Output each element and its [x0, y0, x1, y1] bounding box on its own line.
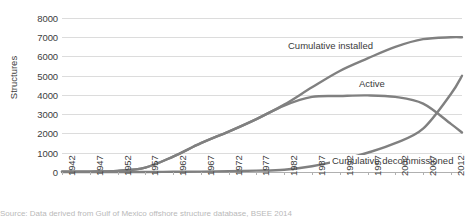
x-tick-label-1982: 1982 [288, 155, 299, 176]
x-tick-label-1942: 1942 [66, 155, 77, 176]
x-tick-label-1972: 1972 [233, 155, 244, 176]
x-tick-label-1967: 1967 [205, 155, 216, 176]
x-tick-mark-2012 [451, 172, 452, 175]
series-line-cumulative-installed [62, 37, 462, 172]
x-tick-mark-2007 [423, 172, 424, 175]
x-tick-mark-1972 [229, 172, 230, 175]
x-tick-label-1977: 1977 [260, 155, 271, 176]
x-tick-mark-1957 [145, 172, 146, 175]
x-tick-mark-1977 [256, 172, 257, 175]
x-tick-label-2007: 2007 [427, 155, 438, 176]
x-tick-mark-1967 [201, 172, 202, 175]
x-tick-mark-1982 [284, 172, 285, 175]
x-tick-label-1987: 1987 [316, 155, 327, 176]
x-tick-mark-1947 [90, 172, 91, 175]
x-tick-label-1997: 1997 [372, 155, 383, 176]
x-tick-label-1947: 1947 [94, 155, 105, 176]
x-tick-label-2012: 2012 [455, 155, 466, 176]
x-tick-mark-1962 [173, 172, 174, 175]
x-tick-label-1962: 1962 [177, 155, 188, 176]
x-tick-mark-1942 [62, 172, 63, 175]
x-tick-mark-2002 [395, 172, 396, 175]
series-label-cumulative-installed: Cumulative installed [286, 40, 375, 51]
x-tick-mark-1992 [340, 172, 341, 175]
x-tick-mark-1987 [312, 172, 313, 175]
x-tick-label-1957: 1957 [149, 155, 160, 176]
x-tick-label-1992: 1992 [344, 155, 355, 176]
series-layer [0, 0, 471, 218]
x-tick-label-1952: 1952 [122, 155, 133, 176]
series-label-active: Active [357, 78, 387, 89]
chart-figure: Structures 8000 7000 6000 5000 4000 3000… [0, 0, 471, 218]
figure-caption: Source: Data derived from Gulf of Mexico… [0, 209, 471, 218]
x-tick-mark-1997 [368, 172, 369, 175]
x-tick-label-2002: 2002 [399, 155, 410, 176]
x-tick-mark-1952 [118, 172, 119, 175]
